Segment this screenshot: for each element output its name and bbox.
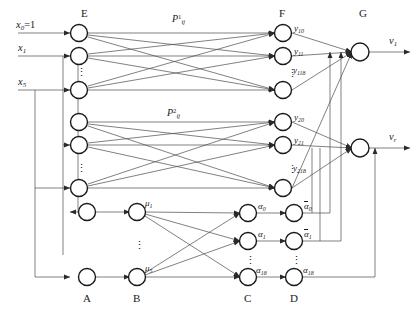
y118-sub: 118 bbox=[297, 70, 305, 76]
v1-sub: 1 bbox=[394, 40, 397, 47]
column-label-F: F bbox=[279, 8, 285, 19]
weight-P2-sub: ij bbox=[176, 112, 180, 119]
weight-label-P1: P1ij bbox=[172, 14, 185, 25]
diagram-wiring bbox=[0, 0, 420, 317]
ellipsis-E-block2: ⋮ bbox=[76, 163, 87, 174]
weight-label-P2: P2ij bbox=[167, 108, 180, 119]
ellipsis-C: ⋮ bbox=[245, 255, 256, 266]
ellipsis-B: ⋮ bbox=[134, 240, 145, 251]
column-label-C: C bbox=[244, 293, 251, 304]
alpha1-sub: 1 bbox=[263, 234, 266, 240]
input-x5-sub: 5 bbox=[23, 81, 26, 88]
mu1-sub: 1 bbox=[150, 203, 153, 209]
node-label-alpha18: α18 bbox=[256, 266, 267, 277]
column-label-E: E bbox=[81, 8, 88, 19]
input-label-x1: x1 bbox=[18, 43, 26, 55]
alpha18-sub: 18 bbox=[261, 270, 267, 276]
alpha0-sub: 0 bbox=[263, 206, 266, 212]
column-label-B: B bbox=[133, 293, 140, 304]
alphabar18-sub: 18 bbox=[308, 270, 314, 276]
node-label-y10: y10 bbox=[294, 24, 304, 35]
input-x1-sub: 1 bbox=[23, 47, 26, 54]
alphabar1-sub: 1 bbox=[309, 234, 312, 240]
node-label-y11: y11 bbox=[294, 47, 304, 58]
ellipsis-F-block2: ⋮ bbox=[287, 164, 298, 175]
node-label-y20: y20 bbox=[294, 113, 304, 124]
node-label-alphabar0: α0 bbox=[304, 202, 312, 213]
y21-sub: 21 bbox=[298, 140, 304, 146]
y218-sub: 218 bbox=[297, 168, 306, 174]
input-x0-tail: =1 bbox=[24, 19, 35, 30]
ellipsis-E-block1: ⋮ bbox=[76, 67, 87, 78]
y11-sub: 11 bbox=[298, 51, 304, 57]
y20-sub: 20 bbox=[298, 117, 304, 123]
alphabar0-sub: 0 bbox=[309, 206, 312, 212]
node-label-mu1: μ1 bbox=[145, 199, 153, 210]
output-label-vr: vr bbox=[389, 132, 396, 144]
network-diagram: E F G A B C D x0=1 x1 x5 P1ij P2ij y10 y… bbox=[0, 0, 420, 317]
node-label-alphabar18: α18 bbox=[303, 266, 314, 277]
node-label-mu5: μ5 bbox=[145, 264, 153, 275]
vr-sub: r bbox=[394, 136, 397, 143]
alphabar1-base: α bbox=[304, 230, 309, 239]
node-label-alpha0: α0 bbox=[258, 202, 266, 213]
ellipsis-F-block1: ⋮ bbox=[287, 68, 298, 79]
node-label-alpha1: α1 bbox=[258, 230, 266, 241]
weight-P1-sub: ij bbox=[181, 18, 185, 25]
node-label-alphabar1: α1 bbox=[304, 230, 312, 241]
column-label-D: D bbox=[290, 293, 298, 304]
y10-sub: 10 bbox=[298, 28, 304, 34]
input-label-x5: x5 bbox=[18, 77, 26, 89]
output-label-v1: v1 bbox=[389, 36, 397, 48]
mu5-sub: 5 bbox=[150, 268, 153, 274]
input-label-x0: x0=1 bbox=[16, 20, 35, 32]
column-label-G: G bbox=[359, 8, 367, 19]
alphabar0-base: α bbox=[304, 202, 309, 211]
ellipsis-D: ⋮ bbox=[291, 255, 302, 266]
column-label-A: A bbox=[83, 293, 91, 304]
node-label-y21: y21 bbox=[294, 136, 304, 147]
